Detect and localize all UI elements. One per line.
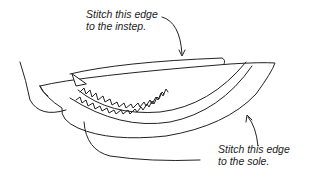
thread-bottom [84, 122, 200, 161]
instep-label: Stitch this edge to the instep. [86, 8, 158, 32]
sole-label-line1: Stitch this edge [218, 143, 290, 155]
sole-label: Stitch this edge to the sole. [218, 143, 290, 167]
instep-label-line2: to the instep. [86, 20, 158, 32]
thread-left [20, 62, 66, 112]
instep-label-line1: Stitch this edge [86, 8, 158, 20]
arrow-sole [248, 117, 258, 146]
sole-label-line2: to the sole. [218, 155, 290, 167]
arrow-instep [162, 17, 182, 54]
sole-outline [40, 63, 275, 138]
stitch-row-lower [76, 92, 164, 114]
